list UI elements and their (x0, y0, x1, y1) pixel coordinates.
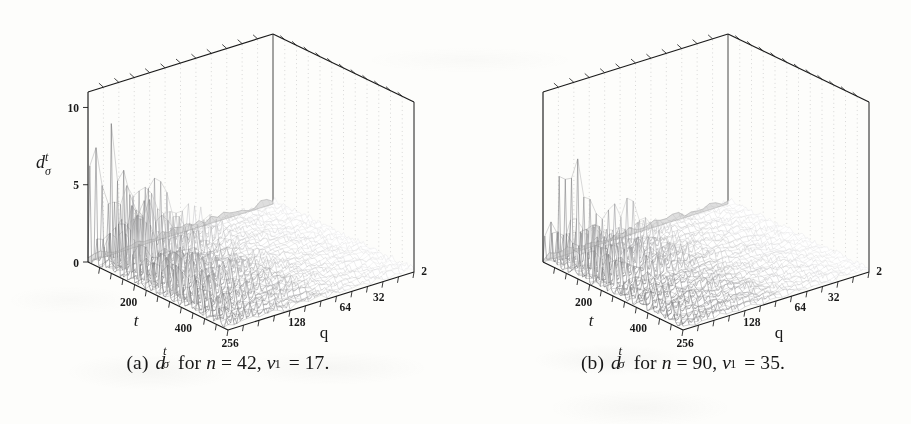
q-axis-label: q (320, 323, 329, 342)
surface-plot-a: 0510dtσ200400t25612864322q (0, 0, 456, 352)
caption-b-period: . (780, 352, 785, 373)
caption-a-quantity: dtσ (155, 352, 175, 374)
q-tick-label: 64 (340, 301, 352, 313)
caption-a-period: . (324, 352, 329, 373)
z-tick-label: 10 (68, 102, 80, 114)
caption-b-label: (b) (581, 352, 604, 373)
t-tick-label: 200 (575, 296, 593, 308)
caption-a-v-name: v1 (267, 352, 284, 374)
caption-a-comma: , (257, 352, 262, 373)
caption-a-n-eq: = (221, 352, 232, 373)
caption-a-for: for (178, 352, 201, 373)
caption-b-v-value: 35 (760, 352, 780, 373)
q-axis-label: q (775, 323, 784, 342)
t-axis-label: t (134, 311, 140, 330)
caption-b-n-name: n (662, 352, 672, 373)
t-axis-label: t (589, 311, 595, 330)
caption-a-label: (a) (127, 352, 149, 373)
q-tick-label: 128 (288, 316, 306, 328)
q-tick-label: 32 (373, 291, 385, 303)
caption-b-comma: , (712, 352, 717, 373)
t-tick-label: 400 (175, 322, 193, 334)
caption-b-n-eq: = (677, 352, 688, 373)
caption-b: (b)dtσfor n = 90, v1 = 35. (455, 352, 911, 374)
svg-text:t: t (45, 150, 49, 164)
svg-text:σ: σ (45, 164, 52, 178)
caption-b-v-name: v1 (722, 352, 739, 374)
z-tick-label: 5 (73, 179, 79, 191)
t-tick-label: 400 (630, 322, 648, 334)
caption-b-for: for (634, 352, 657, 373)
q-tick-label: 256 (676, 337, 694, 349)
q-tick-label: 2 (876, 265, 882, 277)
caption-b-quantity: dtσ (611, 352, 631, 374)
caption-a-v-value: 17 (305, 352, 325, 373)
caption-a-n-name: n (206, 352, 216, 373)
z-axis-label: dtσ (36, 150, 52, 178)
figure-panel-a: 0510dtσ200400t25612864322q (a)dtσfor n =… (0, 0, 456, 424)
z-tick-label: 0 (73, 257, 79, 269)
q-tick-label: 128 (743, 316, 761, 328)
caption-a-n-value: 42 (237, 352, 257, 373)
surface-plot-b: 200400t25612864322q (455, 0, 911, 352)
q-tick-label: 256 (221, 337, 239, 349)
q-tick-label: 32 (828, 291, 840, 303)
caption-b-n-value: 90 (693, 352, 713, 373)
q-tick-label: 64 (795, 301, 807, 313)
caption-a-v-eq: = (289, 352, 300, 373)
caption-b-v-eq: = (744, 352, 755, 373)
caption-a: (a)dtσfor n = 42, v1 = 17. (0, 352, 456, 374)
figure-panel-b: 200400t25612864322q (b)dtσfor n = 90, v1… (455, 0, 911, 424)
t-tick-label: 200 (120, 296, 138, 308)
q-tick-label: 2 (421, 265, 427, 277)
